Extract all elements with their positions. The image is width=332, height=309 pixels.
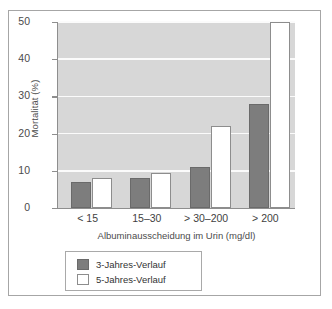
plot-area: [58, 22, 295, 208]
legend-item-label: 3-Jahres-Verlauf: [96, 259, 166, 270]
gridline: [58, 96, 295, 98]
legend-swatch-icon: [77, 274, 89, 285]
legend-item-5-jahres-verlauf[interactable]: 5-Jahres-Verlauf: [77, 272, 166, 287]
y-axis-tick-mark: [52, 96, 57, 97]
y-axis-tick-mark: [52, 134, 57, 135]
bar: [270, 22, 290, 208]
legend-swatch-icon: [77, 259, 89, 270]
bar-chart: Mortalität (%) Albuminausscheidung im Ur…: [9, 11, 322, 297]
x-axis-title: Albuminausscheidung im Urin (mg/dl): [58, 230, 295, 241]
x-axis-line: [57, 208, 295, 209]
y-axis-tick-label: 0: [0, 201, 30, 213]
y-axis-tick-mark: [52, 59, 57, 60]
legend-item-label: 5-Jahres-Verlauf: [96, 274, 166, 285]
bar: [71, 182, 91, 208]
y-axis-line: [57, 22, 58, 209]
y-axis-tick-label: 50: [0, 15, 30, 27]
y-axis-tick-label: 40: [0, 52, 30, 64]
y-axis-tick-mark: [52, 22, 57, 23]
y-axis-tick-mark: [52, 171, 57, 172]
bar: [211, 126, 231, 208]
bar: [92, 178, 112, 209]
x-axis-tick-label: > 30–200: [177, 212, 236, 224]
x-axis-tick-label: < 15: [58, 212, 117, 224]
y-axis-tick-label: 20: [0, 127, 30, 139]
bar: [190, 167, 210, 208]
bar: [151, 173, 171, 208]
gridline: [58, 21, 295, 23]
y-axis-tick-label: 30: [0, 89, 30, 101]
y-axis-title: Mortalität (%): [29, 44, 40, 174]
gridline: [58, 58, 295, 60]
figure-frame: Mortalität (%) Albuminausscheidung im Ur…: [8, 10, 321, 296]
legend-item-3-jahres-verlauf[interactable]: 3-Jahres-Verlauf: [77, 257, 166, 272]
x-axis-tick-label: > 200: [236, 212, 295, 224]
bar: [249, 104, 269, 208]
chart-legend: 3-Jahres-Verlauf 5-Jahres-Verlauf: [65, 251, 202, 291]
y-axis-tick-mark: [52, 208, 57, 209]
y-axis-tick-label: 10: [0, 164, 30, 176]
bar: [130, 178, 150, 208]
x-axis-tick-label: 15–30: [117, 212, 176, 224]
